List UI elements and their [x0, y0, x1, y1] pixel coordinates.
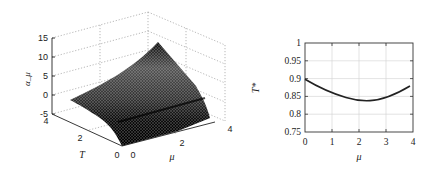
x-tick-label: 3 [384, 137, 389, 147]
x-tick-label: 1 [330, 137, 335, 147]
surface-plot-panel: 15 10 5 0 -5 4 2 0 0 2 4 α_μ T μ [0, 0, 250, 171]
z-tick-label: 10 [38, 52, 48, 62]
y-tick-label: 0.85 [284, 91, 301, 101]
x-axis-label: μ [355, 151, 361, 162]
t-tick-label: 2 [77, 133, 82, 143]
y-tick-label: 0.9 [289, 74, 301, 84]
x-tick-label: 2 [357, 137, 362, 147]
x-tick-labels: 0 1 2 3 4 [303, 137, 416, 147]
z-tick-label: 15 [38, 33, 48, 43]
y-tick-labels: 1 0.95 0.9 0.85 0.8 0.75 [284, 38, 301, 137]
y-tick-label: 0.95 [284, 56, 301, 66]
t-star-curve [305, 79, 410, 100]
z-tick-label: 0 [43, 90, 48, 100]
surface-mesh [70, 42, 210, 146]
x-tick-label: 0 [303, 137, 308, 147]
line-plot-panel: 1 0.95 0.9 0.85 0.8 0.75 0 1 2 3 4 T* μ [250, 0, 438, 171]
mu-tick-label: 0 [130, 150, 135, 160]
t-tick-label: 0 [114, 150, 119, 160]
surface-plot: 15 10 5 0 -5 4 2 0 0 2 4 α_μ T μ [0, 0, 250, 171]
z-tick-labels: 15 10 5 0 -5 [38, 33, 48, 119]
y-axis-label: T* [250, 83, 261, 94]
y-tick-label: 0.75 [284, 127, 301, 137]
z-tick-label: 5 [43, 71, 48, 81]
mu-axis-label: μ [168, 151, 174, 162]
y-tick-label: 0.8 [289, 109, 301, 119]
line-plot: 1 0.95 0.9 0.85 0.8 0.75 0 1 2 3 4 T* μ [250, 0, 438, 171]
t-tick-label: 4 [43, 116, 48, 126]
t-axis-label: T [79, 149, 86, 160]
mu-tick-label: 2 [179, 138, 184, 148]
mu-tick-label: 4 [227, 124, 232, 134]
z-axis-label: α_μ [22, 72, 32, 86]
x-tick-label: 4 [411, 137, 416, 147]
y-tick-label: 1 [296, 38, 301, 48]
